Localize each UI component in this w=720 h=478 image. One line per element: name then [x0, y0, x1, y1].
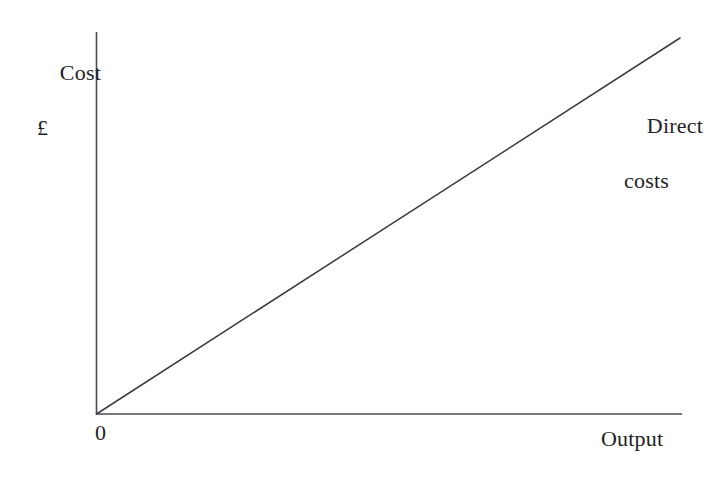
- x-axis-title: Output: [601, 425, 663, 453]
- cost-output-chart: Cost £ Direct costs 0 Output: [0, 0, 720, 478]
- origin-label: 0: [95, 419, 106, 447]
- direct-costs-annotation: Direct costs: [624, 84, 703, 250]
- y-axis-title: Cost £: [37, 31, 101, 197]
- y-axis-title-unit: £: [37, 114, 101, 142]
- direct-costs-annotation-line2: costs: [624, 167, 703, 195]
- direct-costs-annotation-line1: Direct: [647, 113, 703, 138]
- direct-costs-line: [97, 38, 681, 414]
- y-axis-title-main: Cost: [60, 60, 101, 85]
- chart-plot-area: [0, 0, 720, 478]
